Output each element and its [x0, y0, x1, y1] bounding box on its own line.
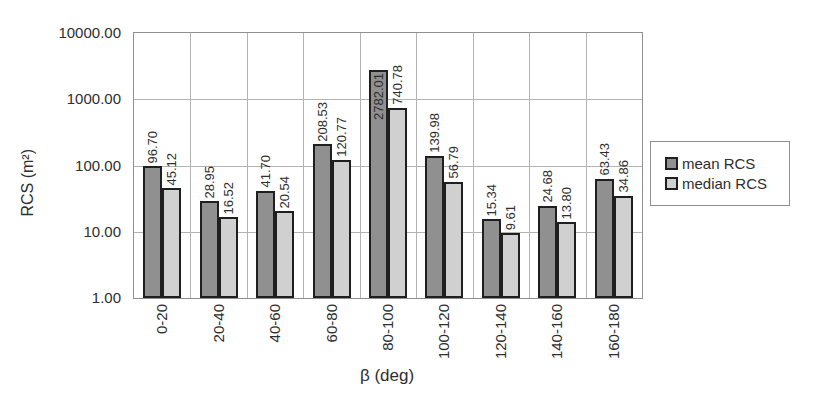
y-tick-label: 10000.00 [58, 24, 121, 41]
legend: mean RCSmedian RCS [650, 141, 790, 206]
legend-swatch-mean-rcs [665, 157, 678, 170]
bar-mean-rcs [538, 206, 557, 298]
bar-median-rcs [162, 188, 181, 298]
bar-median-rcs [275, 211, 294, 298]
bar-median-rcs [501, 233, 520, 298]
bar-value-label: 41.70 [258, 155, 273, 188]
x-tick-label: 60-80 [323, 304, 340, 342]
bar-value-label: 28.95 [202, 166, 217, 199]
x-axis-ticks: 0-2020-4040-6060-8080-100100-120120-1401… [133, 304, 641, 374]
bar-value-label: 34.86 [616, 160, 631, 193]
category-group: 2782.01740.78 [360, 33, 416, 298]
y-tick-label: 100.00 [75, 156, 121, 173]
legend-swatch-median-rcs [665, 177, 678, 190]
bar-median-rcs [557, 222, 576, 298]
bar-value-label: 63.43 [597, 143, 612, 176]
chart-figure: RCS (m²) 10000.001000.00100.0010.001.00 … [0, 0, 824, 418]
bar-value-label: 96.70 [145, 131, 160, 164]
category-group: 139.9856.79 [416, 33, 472, 298]
bar-mean-rcs [143, 166, 162, 298]
bar-value-label: 2782.01 [371, 73, 386, 120]
bar-value-label: 56.79 [446, 146, 461, 179]
x-tick-label: 100-120 [435, 304, 452, 359]
bar-value-label: 208.53 [315, 102, 330, 142]
bar-median-rcs [614, 196, 633, 298]
bar-value-label: 139.98 [427, 113, 442, 153]
bar-mean-rcs [595, 179, 614, 298]
bar-value-label: 120.77 [334, 117, 349, 157]
x-tick-label: 20-40 [210, 304, 227, 342]
y-axis-ticks: 10000.001000.00100.0010.001.00 [0, 32, 126, 297]
category-group: 24.6813.80 [529, 33, 585, 298]
y-tick-label: 1.00 [92, 289, 121, 306]
category-group: 63.4334.86 [586, 33, 642, 298]
bar-value-label: 45.12 [164, 153, 179, 186]
bar-value-label: 9.61 [503, 205, 518, 230]
legend-label: mean RCS [682, 155, 755, 172]
x-tick-label: 80-100 [379, 304, 396, 351]
bar-median-rcs [219, 217, 238, 298]
plot-area: 96.7045.1228.9516.5241.7020.54208.53120.… [133, 32, 643, 299]
category-group: 15.349.61 [473, 33, 529, 298]
category-group: 208.53120.77 [303, 33, 359, 298]
legend-label: median RCS [682, 175, 767, 192]
bar-value-label: 15.34 [484, 184, 499, 217]
bar-median-rcs [388, 108, 407, 298]
bar-value-label: 24.68 [540, 170, 555, 203]
bar-mean-rcs [482, 219, 501, 298]
bar-value-label: 16.52 [221, 182, 236, 215]
category-group: 96.7045.12 [134, 33, 190, 298]
x-tick-label: 120-140 [492, 304, 509, 359]
bar-mean-rcs [313, 144, 332, 298]
x-tick-label: 140-160 [548, 304, 565, 359]
bar-mean-rcs [256, 191, 275, 298]
category-group: 28.9516.52 [190, 33, 246, 298]
legend-item: mean RCS [665, 155, 781, 172]
bar-mean-rcs [200, 201, 219, 298]
x-tick-label: 160-180 [605, 304, 622, 359]
x-tick-label: 40-60 [266, 304, 283, 342]
bar-median-rcs [444, 182, 463, 298]
bar-mean-rcs [425, 156, 444, 298]
legend-item: median RCS [665, 175, 781, 192]
x-tick-label: 0-20 [153, 304, 170, 334]
bar-value-label: 20.54 [277, 176, 292, 209]
y-tick-label: 1000.00 [67, 90, 121, 107]
x-axis-title: β (deg) [133, 366, 641, 386]
bar-median-rcs [332, 160, 351, 298]
category-group: 41.7020.54 [247, 33, 303, 298]
bar-value-label: 740.78 [390, 65, 405, 105]
bar-value-label: 13.80 [559, 187, 574, 220]
y-tick-label: 10.00 [83, 222, 121, 239]
